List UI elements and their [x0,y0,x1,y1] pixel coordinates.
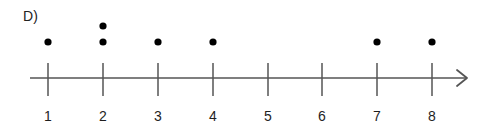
tick-label: 5 [264,108,272,124]
data-dot [44,38,51,45]
data-dot [209,38,216,45]
tick-labels: 1 2 3 4 5 6 7 8 [44,108,436,124]
tick-label: 1 [44,108,52,124]
data-dots [44,22,435,45]
tick-label: 6 [318,108,326,124]
data-dot [373,38,380,45]
data-dot [154,38,161,45]
tick-label: 4 [209,108,217,124]
dot-plot-figure: D) 1 2 3 4 5 6 7 8 [0,0,478,129]
tick-label: 7 [373,108,381,124]
data-dot [99,38,106,45]
tick-label: 8 [428,108,436,124]
number-line-plot: 1 2 3 4 5 6 7 8 [0,0,478,129]
data-dot [99,22,106,29]
tick-marks [48,63,432,96]
tick-label: 2 [99,108,107,124]
tick-label: 3 [154,108,162,124]
data-dot [428,38,435,45]
